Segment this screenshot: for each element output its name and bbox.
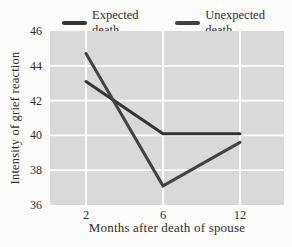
y-tick-label-40: 40 [14, 128, 42, 142]
y-tick-label-38: 38 [14, 163, 42, 177]
y-tick-label-36: 36 [14, 198, 42, 212]
x-axis-title: Months after death of spouse [50, 220, 284, 236]
grief-reaction-line-chart: Expected death Unexpected death Intensit… [0, 0, 292, 247]
axis-tick-labels: 3638404244462612 [0, 0, 292, 247]
y-tick-label-44: 44 [14, 59, 42, 73]
y-tick-label-46: 46 [14, 24, 42, 38]
y-tick-label-42: 42 [14, 94, 42, 108]
